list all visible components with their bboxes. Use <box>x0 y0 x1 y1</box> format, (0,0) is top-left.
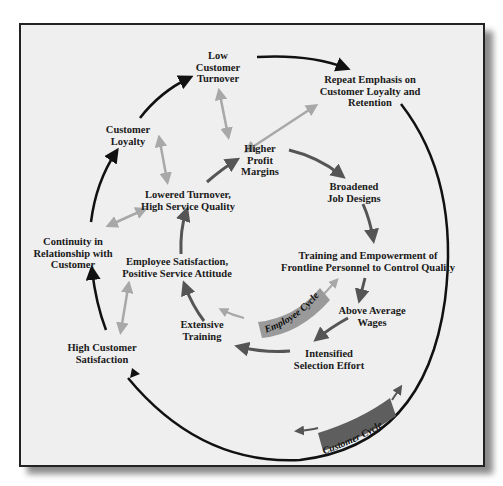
node-continuity: Continuity in Relationship with Customer <box>33 236 112 271</box>
node-repeat-emphasis: Repeat Emphasis on Customer Loyalty and … <box>320 74 421 109</box>
node-training-empowerment: Training and Empowerment of Frontline Pe… <box>281 250 455 273</box>
node-above-average-wages: Above Average Wages <box>338 305 405 328</box>
node-higher-profit-margins: Higher Profit Margins <box>241 143 279 178</box>
node-lowered-turnover: Lowered Turnover, High Service Quality <box>141 189 235 212</box>
employee-cycle-banner: Employee Cycle <box>222 281 336 338</box>
node-high-customer-satisfaction: High Customer Satisfaction <box>67 342 136 365</box>
node-employee-satisfaction: Employee Satisfaction, Positive Service … <box>122 256 232 279</box>
node-customer-loyalty: Customer Loyalty <box>106 124 150 147</box>
node-extensive-training: Extensive Training <box>180 319 223 342</box>
node-broadened-job-designs: Broadened Job Designs <box>327 181 380 204</box>
customer-cycle-banner: Customer Cycle <box>298 388 400 456</box>
node-intensified-selection: Intensified Selection Effort <box>294 348 364 371</box>
node-low-customer-turnover: Low Customer Turnover <box>196 50 240 85</box>
